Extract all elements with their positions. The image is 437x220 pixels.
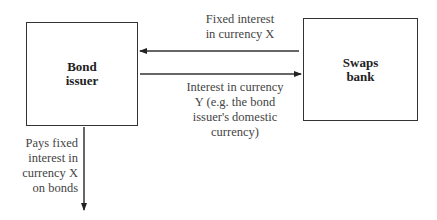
- fixed-interest-label: Fixed interest in currency X: [180, 12, 300, 42]
- bond-issuer-label: Bond issuer: [66, 60, 99, 88]
- pays-fixed-label-line: interest in: [0, 151, 78, 166]
- swaps-bank-label: Swaps bank: [343, 56, 378, 84]
- swaps-bank-label-line2: bank: [343, 70, 378, 84]
- swaps-bank-box: Swaps bank: [303, 18, 418, 121]
- interest-y-label-line: Interest in currency: [170, 80, 300, 95]
- interest-y-label: Interest in currency Y (e.g. the bond is…: [170, 80, 300, 140]
- bond-issuer-label-line1: Bond: [66, 60, 99, 74]
- pays-fixed-interest-label: Pays fixed interest in currency X on bon…: [0, 136, 78, 196]
- fixed-interest-label-line: in currency X: [180, 27, 300, 42]
- interest-y-label-line: issuer's domestic: [170, 110, 300, 125]
- bond-issuer-box: Bond issuer: [26, 22, 138, 126]
- swaps-bank-label-line1: Swaps: [343, 56, 378, 70]
- pays-fixed-label-line: on bonds: [0, 181, 78, 196]
- fixed-interest-label-line: Fixed interest: [180, 12, 300, 27]
- interest-y-label-line: currency): [170, 125, 300, 140]
- bond-issuer-label-line2: issuer: [66, 74, 99, 88]
- interest-y-label-line: Y (e.g. the bond: [170, 95, 300, 110]
- pays-fixed-label-line: currency X: [0, 166, 78, 181]
- pays-fixed-label-line: Pays fixed: [0, 136, 78, 151]
